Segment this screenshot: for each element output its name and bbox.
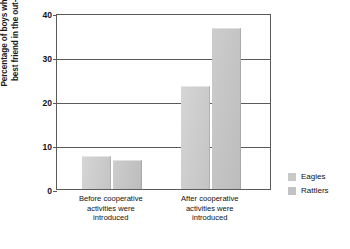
bar-chart: Percentage of boys who had a best friend…: [0, 0, 350, 249]
y-axis-title: Percentage of boys who had a best friend…: [0, 0, 25, 119]
bar-eagles-group-0: [82, 156, 111, 189]
x-axis-label-group-0: Before cooperative activities were intro…: [61, 194, 161, 223]
bar-rattlers-group-0: [113, 160, 142, 189]
y-tick-label-30: 30: [43, 54, 52, 64]
y-tick-label-40: 40: [43, 10, 52, 20]
bar-rattlers-group-1: [212, 28, 241, 189]
legend: Eagles Rattlers: [288, 172, 329, 195]
legend-label-eagles: Eagles: [301, 172, 325, 181]
y-tick-mark-20: [53, 103, 57, 104]
x-axis-label-group-1: After cooperative activities were introd…: [160, 194, 260, 223]
y-tick-mark-0: [53, 191, 57, 192]
y-tick-mark-10: [53, 147, 57, 148]
legend-label-rattlers: Rattlers: [301, 186, 329, 195]
legend-swatch-rattlers: [288, 187, 296, 195]
legend-item-eagles: Eagles: [288, 172, 329, 181]
y-tick-label-20: 20: [43, 98, 52, 108]
y-tick-mark-40: [53, 15, 57, 16]
legend-swatch-eagles: [288, 173, 296, 181]
y-tick-label-0: 0: [47, 186, 52, 196]
plot-area: 010203040: [56, 14, 271, 190]
y-tick-mark-30: [53, 59, 57, 60]
legend-item-rattlers: Rattlers: [288, 186, 329, 195]
bar-eagles-group-1: [181, 86, 210, 189]
y-tick-label-10: 10: [43, 142, 52, 152]
